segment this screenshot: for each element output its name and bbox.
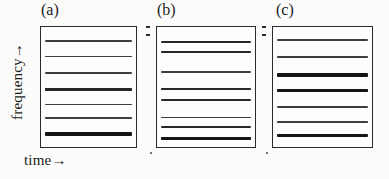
scan-dot-panel-a (150, 152, 152, 154)
spectral-line (161, 137, 251, 141)
spectral-line (161, 88, 251, 90)
spectral-line (45, 88, 132, 90)
scan-dot-panel-b (266, 152, 268, 154)
figure-root: frequency→ time→ (a) (b) (c) (0, 0, 389, 179)
spectrogram-panel-b (156, 26, 256, 148)
spectral-line (161, 117, 251, 119)
spectrogram-panel-a (40, 26, 137, 148)
tick-mark-between-a-b-lower (146, 34, 150, 36)
tick-mark-between-b-c (262, 26, 266, 28)
spectral-line (45, 132, 132, 136)
spectral-line (277, 39, 368, 41)
spectral-line (277, 106, 368, 108)
spectrogram-panel-c (272, 26, 373, 148)
tick-mark-between-b-c-lower (262, 34, 266, 36)
spectral-line (45, 72, 132, 74)
spectral-line (161, 99, 251, 101)
spectral-line (277, 56, 368, 58)
spectral-line (161, 51, 251, 53)
spectral-line (45, 104, 132, 106)
spectral-line (45, 117, 132, 119)
spectral-line (277, 121, 368, 123)
tick-mark-between-a-b (146, 26, 150, 28)
panel-label-c: (c) (276, 2, 294, 18)
spectral-line (45, 40, 132, 42)
spectral-line (277, 89, 368, 93)
panel-label-a: (a) (41, 2, 59, 18)
spectral-line (161, 126, 251, 128)
panel-label-b: (b) (157, 2, 176, 18)
x-axis-label: time→ (24, 153, 67, 168)
spectral-line (161, 41, 251, 43)
spectral-line (161, 71, 251, 73)
spectral-line (277, 73, 368, 77)
y-axis-label: frequency→ (10, 34, 25, 130)
spectral-line (45, 56, 132, 58)
spectral-line (277, 134, 368, 137)
